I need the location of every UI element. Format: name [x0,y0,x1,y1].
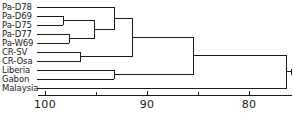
leaf-label-malaysia: Malaysia [2,84,38,93]
dendrogram-figure: Pa-D78Pa-D69Pa-D75Pa-D77Pa-W69CR-SVCR-Os… [0,0,293,117]
axis-tick-label-100: 100 [34,98,56,111]
axis-tick-label-90: 90 [140,98,155,111]
axis-tick-label-80: 80 [242,98,257,111]
